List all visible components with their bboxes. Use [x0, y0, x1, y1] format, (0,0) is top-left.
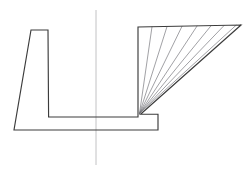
fan-ray-2: [140, 27, 168, 114]
fan-ray-7: [140, 25, 237, 113]
drawing-canvas: Technical cross-section line drawing: [0, 0, 252, 175]
section-outline: [14, 25, 241, 130]
line-drawing-figure: Technical cross-section line drawing: [0, 0, 252, 175]
fan-ray-4: [140, 26, 198, 113]
radial-hatch-fan: [140, 25, 237, 113]
fan-ray-6: [140, 26, 225, 114]
